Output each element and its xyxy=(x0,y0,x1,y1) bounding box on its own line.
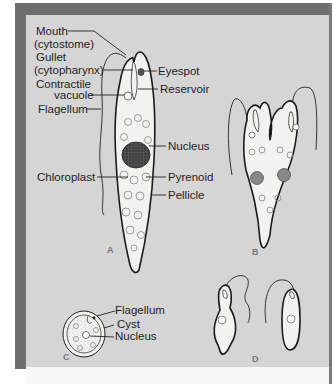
panel-c xyxy=(63,311,115,357)
figure-label-c: C xyxy=(63,352,70,362)
euglena-diagram: Mouth (cytostome) Gullet (cytopharynx) C… xyxy=(0,0,334,384)
label-chloroplast: Chloroplast xyxy=(37,171,96,183)
label-gullet: Gullet xyxy=(36,51,67,63)
eyespot-a xyxy=(138,69,144,76)
nucleus-a xyxy=(122,142,150,168)
label-c-nucleus: Nucleus xyxy=(115,330,157,342)
label-mouth-sub: (cytostome) xyxy=(34,38,94,50)
label-gullet-sub: (cytopharynx) xyxy=(34,64,104,76)
nucleus-d-right xyxy=(287,315,295,323)
leader-c-cyst xyxy=(104,325,114,328)
label-reservoir: Reservoir xyxy=(160,83,209,95)
nucleus-b-right xyxy=(278,169,291,182)
figure-label-b: B xyxy=(252,247,259,257)
contractile-vacuole-a xyxy=(124,92,132,100)
panel-d xyxy=(214,276,300,355)
label-flagellum-a: Flagellum xyxy=(38,103,88,115)
label-c-cyst: Cyst xyxy=(117,318,141,330)
nucleus-c xyxy=(83,332,90,339)
figure-label-a: A xyxy=(107,245,114,255)
label-pellicle: Pellicle xyxy=(168,189,204,201)
label-eyespot: Eyespot xyxy=(158,65,200,77)
label-mouth: Mouth xyxy=(36,25,68,37)
leader-c-flagellum xyxy=(97,311,115,316)
figure-label-d: D xyxy=(252,354,259,364)
label-nucleus-a: Nucleus xyxy=(168,140,210,152)
nucleus-b-left xyxy=(251,172,264,185)
label-c-flagellum: Flagellum xyxy=(115,304,165,316)
nucleus-d-left xyxy=(218,316,226,324)
label-pyrenoid: Pyrenoid xyxy=(168,171,213,183)
panel-b xyxy=(228,87,316,248)
label-contractile-sub: vacuole xyxy=(54,89,94,101)
